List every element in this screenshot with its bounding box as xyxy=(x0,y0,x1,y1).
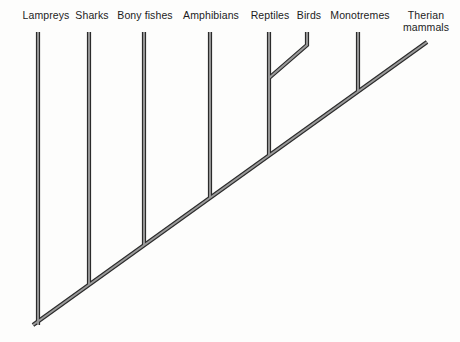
taxon-label-birds: Birds xyxy=(297,10,321,22)
taxon-label-therian: Therian mammals xyxy=(403,10,449,33)
taxon-label-amphibians: Amphibians xyxy=(183,10,239,22)
cladogram-canvas xyxy=(0,0,460,342)
taxon-label-reptiles: Reptiles xyxy=(251,10,290,22)
branch-birds-outline xyxy=(269,32,307,78)
spine-branch-therian-fill xyxy=(33,42,427,325)
taxon-label-lampreys: Lampreys xyxy=(23,10,70,22)
taxon-label-sharks: Sharks xyxy=(75,10,108,22)
cladogram-diagram: LampreysSharksBony fishesAmphibiansRepti… xyxy=(0,0,460,342)
taxon-label-monotremes: Monotremes xyxy=(330,10,389,22)
branch-outer-strokes xyxy=(33,32,427,325)
taxon-label-bony-fishes: Bony fishes xyxy=(117,10,172,22)
